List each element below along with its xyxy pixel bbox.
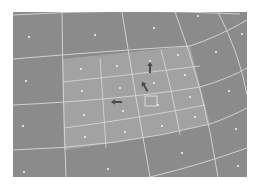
- refined-point: [189, 96, 191, 98]
- coarse-point: [23, 171, 25, 173]
- refined-point: [184, 74, 186, 76]
- refined-point: [84, 136, 86, 138]
- coarse-point: [153, 27, 155, 29]
- refined-point: [161, 125, 163, 127]
- refined-point: [83, 114, 85, 116]
- coarse-point: [25, 80, 27, 82]
- refined-point: [124, 131, 126, 133]
- refined-point: [81, 90, 83, 92]
- refined-point: [80, 68, 82, 70]
- refined-point: [119, 87, 121, 89]
- curved-grid-diagram: [0, 0, 256, 184]
- coarse-point: [215, 51, 217, 53]
- coarse-point: [197, 15, 199, 17]
- refined-point: [116, 65, 118, 67]
- coarse-point: [28, 36, 30, 38]
- refined-point: [122, 110, 124, 112]
- coarse-point: [237, 165, 239, 167]
- coarse-point: [94, 34, 96, 36]
- coarse-point: [22, 125, 24, 127]
- coarse-point: [107, 168, 109, 170]
- refined-point: [149, 60, 151, 62]
- diagram-canvas: [0, 0, 256, 184]
- refined-point: [177, 54, 179, 56]
- coarse-point: [235, 128, 237, 130]
- coarse-point: [181, 152, 183, 154]
- refined-point: [194, 116, 196, 118]
- coarse-point: [228, 90, 230, 92]
- coarse-point: [241, 33, 243, 35]
- refined-point: [153, 82, 155, 84]
